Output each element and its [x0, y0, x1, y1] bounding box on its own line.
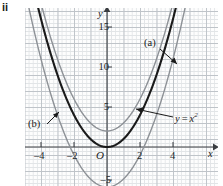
label-curve-b: (b)	[28, 118, 40, 129]
x-axis-label: x	[208, 149, 213, 159]
x-tick-2: 2	[137, 151, 142, 161]
equation-y: y	[175, 113, 180, 124]
label-equation: y=x2	[175, 110, 198, 124]
y-axis-label: y	[98, 9, 103, 19]
label-curve-a: (a)	[144, 37, 156, 48]
analytic-curves	[25, 8, 218, 186]
y-tick-5: 5	[85, 102, 109, 112]
y-tick-10: 10	[85, 62, 109, 72]
y-tick-15: 15	[85, 22, 109, 32]
origin-label: O	[96, 150, 104, 161]
equation-exponent: 2	[194, 111, 198, 119]
y-tick-minus5: –5	[87, 175, 111, 185]
x-tick-4: 4	[170, 151, 175, 161]
x-tick-minus4: –4	[34, 151, 45, 161]
curve-b-analytic	[28, 8, 186, 186]
x-tick-minus2: –2	[67, 151, 78, 161]
plot-area: 15 10 5 –5 –4 –2 2 4 O x y (a) (b) y=x2	[25, 8, 218, 186]
equation-eq-sign: =	[182, 113, 188, 124]
part-label: ii	[2, 2, 8, 13]
figure-root: ii	[0, 0, 223, 186]
